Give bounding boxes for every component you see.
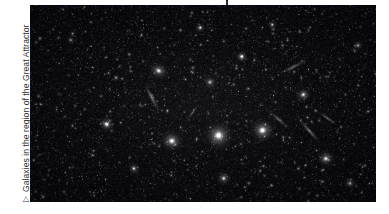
triangle-right-icon: ▷ <box>22 196 30 202</box>
caption-rail: ▷ Galaxies in the region of the Great At… <box>0 0 28 214</box>
sky-canvas <box>30 5 376 202</box>
figure-page: ▷ Galaxies in the region of the Great At… <box>0 0 389 214</box>
great-attractor-sky-image <box>30 5 376 202</box>
figure-caption-text: Galaxies in the region of the Great Attr… <box>22 24 31 192</box>
